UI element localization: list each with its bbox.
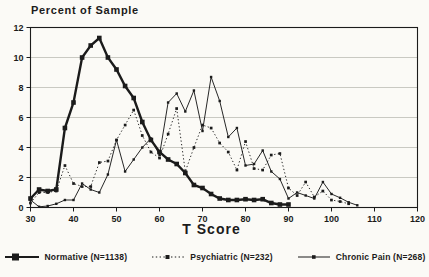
legend: Normative (N=1138) Psychiatric (N=232) C… bbox=[0, 252, 429, 262]
legend-item-normative: Normative (N=1138) bbox=[4, 252, 128, 262]
chart-figure: Percent of Sample 0246810123040506070809… bbox=[0, 0, 429, 277]
y-tick-label: 8 bbox=[18, 83, 23, 93]
legend-item-psychiatric: Psychiatric (N=232) bbox=[151, 252, 272, 262]
series-psychiatric bbox=[29, 107, 350, 205]
y-tick-label: 10 bbox=[13, 53, 23, 63]
y-tick-label: 0 bbox=[18, 203, 23, 213]
y-tick-label: 12 bbox=[13, 23, 23, 33]
legend-item-chronic-pain: Chronic Pain (N=268) bbox=[297, 252, 426, 262]
series-normative bbox=[28, 36, 291, 207]
y-tick-label: 2 bbox=[18, 173, 23, 183]
thin-line-marker-icon bbox=[297, 252, 331, 262]
y-tick-label: 4 bbox=[18, 143, 23, 153]
y-tick-label: 6 bbox=[18, 113, 23, 123]
thick-line-square-marker-icon bbox=[4, 252, 40, 262]
dotted-line-marker-icon bbox=[151, 252, 185, 262]
legend-label: Psychiatric (N=232) bbox=[190, 252, 272, 262]
legend-label: Normative (N=1138) bbox=[45, 252, 128, 262]
y-axis-ticks: 024681012 bbox=[13, 23, 30, 213]
legend-label: Chronic Pain (N=268) bbox=[336, 252, 426, 262]
x-axis-title: T Score bbox=[0, 221, 423, 237]
